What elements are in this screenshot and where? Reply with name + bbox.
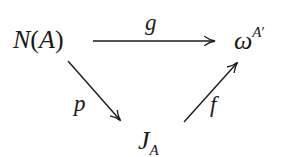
node-n-paren-close: ) [55,25,64,54]
node-n-arg: A [39,25,55,54]
label-f: f [210,93,216,116]
node-omega-base: ω [234,26,252,55]
node-n-base: N [13,25,30,54]
node-j-base: J [138,126,150,155]
node-n-of-a: N(A) [13,27,64,53]
label-g: g [145,11,157,34]
node-j-subscript: A [150,142,159,157]
node-omega: ωA′ [234,28,265,54]
node-j-a: JA [138,128,159,154]
node-omega-superscript: A′ [252,24,264,40]
label-p: p [74,92,86,115]
node-n-paren-open: ( [30,25,39,54]
